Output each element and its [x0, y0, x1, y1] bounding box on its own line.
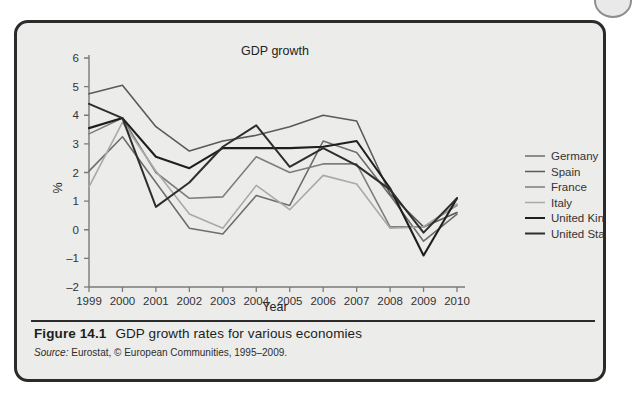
- x-axis-tick-label: 2009: [411, 295, 437, 307]
- y-axis: 6543210–1–2: [66, 52, 89, 293]
- legend-label-italy: Italy: [551, 197, 572, 209]
- chart-title: GDP growth: [241, 44, 309, 58]
- legend-label-germany: Germany: [551, 150, 599, 162]
- x-axis-tick-label: 2002: [177, 295, 203, 307]
- figure-source: Source: Eurostat, © European Communities…: [34, 347, 594, 358]
- chart-legend: GermanySpainFranceItalyUnited KingdomUni…: [525, 150, 606, 240]
- chart-plot-area: GDP growth 6543210–1–2 19992000200120022…: [17, 23, 606, 319]
- caption-block: Figure 14.1GDP growth rates for various …: [34, 326, 594, 358]
- x-axis-tick-label: 2006: [310, 295, 336, 307]
- x-axis-tick-label: 2008: [377, 295, 403, 307]
- figure-caption: Figure 14.1GDP growth rates for various …: [34, 326, 594, 341]
- legend-label-france: France: [551, 181, 587, 193]
- x-axis-tick-label: 2007: [344, 295, 370, 307]
- figure-caption-text: GDP growth rates for various economies: [115, 326, 362, 341]
- source-label: Source:: [34, 347, 68, 358]
- caption-divider: [31, 320, 595, 322]
- x-axis-tick-label: 2010: [444, 295, 470, 307]
- y-axis-tick-label: 1: [73, 195, 79, 207]
- figure-container: GDP growth 6543210–1–2 19992000200120022…: [14, 20, 606, 382]
- x-axis-label: Year: [262, 300, 287, 314]
- y-axis-tick-label: 3: [73, 138, 79, 150]
- y-axis-tick-label: –1: [66, 252, 79, 264]
- figure-number: Figure 14.1: [34, 326, 106, 341]
- x-axis-tick-label: 2001: [143, 295, 169, 307]
- gdp-growth-line-chart: GDP growth 6543210–1–2 19992000200120022…: [17, 23, 606, 319]
- source-text: Eurostat, © European Communities, 1995–2…: [71, 347, 287, 358]
- legend-label-united-states: United States: [551, 228, 606, 240]
- y-axis-tick-label: –2: [66, 281, 79, 293]
- page-corner-artifact: [594, 0, 632, 18]
- y-axis-label: %: [51, 182, 65, 193]
- x-axis-tick-label: 1999: [76, 295, 102, 307]
- y-axis-tick-label: 6: [73, 52, 79, 64]
- y-axis-tick-label: 0: [73, 224, 79, 236]
- y-axis-tick-label: 2: [73, 167, 79, 179]
- x-axis-tick-label: 2000: [110, 295, 136, 307]
- data-series-group: [89, 85, 457, 255]
- x-axis-tick-label: 2003: [210, 295, 236, 307]
- legend-label-united-kingdom: United Kingdom: [551, 212, 606, 224]
- legend-label-spain: Spain: [551, 166, 580, 178]
- chart-title-group: GDP growth: [241, 44, 309, 58]
- y-axis-tick-label: 5: [73, 81, 79, 93]
- series-line-united-kingdom: [89, 118, 457, 255]
- y-axis-tick-label: 4: [73, 109, 80, 121]
